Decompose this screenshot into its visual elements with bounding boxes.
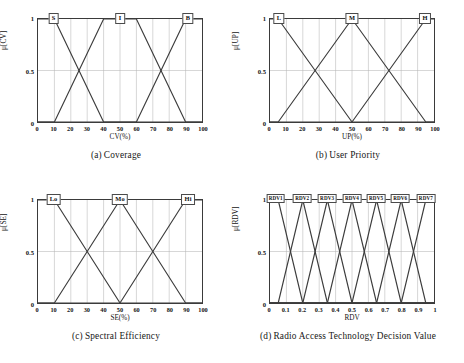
panel-b: μ[UP] LMH 00.51 0102030405060708090100 U… (232, 0, 464, 181)
panel-b-caption: (b)User Priority (232, 150, 464, 160)
panel-d-x-tick-6: 0.6 (365, 306, 373, 313)
panel-c-x-tick-2: 20 (67, 306, 73, 313)
panel-c-x-tick-7: 70 (150, 306, 156, 313)
panel-b-x-tick-10: 100 (430, 125, 439, 132)
panel-a-caption: (a)Coverage (0, 150, 232, 160)
panel-b-x-tick-2: 20 (299, 125, 305, 132)
panel-a-set-label-i: I (115, 13, 125, 24)
panel-d-caption: (d)Radio Access Technology Decision Valu… (232, 331, 464, 341)
panel-b-y-tick-0: 0 (242, 120, 266, 127)
panel-a-caption-label: (a) (91, 150, 102, 160)
panel-b-x-tick-7: 70 (382, 125, 388, 132)
panel-d-x-tick-2: 0.2 (298, 306, 306, 313)
panel-c-set-label-hi: Hi (181, 194, 195, 205)
panel-c-x-tick-0: 0 (35, 306, 38, 313)
panel-c-y-tick-0: 0 (10, 301, 34, 308)
panel-b-plot-area: μ[UP] LMH 00.51 0102030405060708090100 U… (232, 0, 464, 148)
panel-b-x-tick-5: 50 (349, 125, 355, 132)
panel-d-x-tick-8: 0.8 (398, 306, 406, 313)
panel-c-x-tick-8: 80 (167, 306, 173, 313)
panel-c-x-tick-3: 30 (84, 306, 90, 313)
panel-d-x-tick-1: 0.1 (282, 306, 290, 313)
panel-d-x-tick-4: 0.4 (331, 306, 339, 313)
panel-d-set-label-rdv2: RDV2 (293, 194, 312, 203)
panel-a-set-label-b: B (182, 13, 193, 24)
panel-d-set-label-rdv1: RDV1 (266, 194, 285, 203)
figure-grid: μ[CV] SIB 00.51 0102030405060708090100 C… (0, 0, 464, 363)
panel-a-y-tick-0: 0 (10, 120, 34, 127)
panel-c: μ[SE] LoMoHi 00.51 010203040506070809010… (0, 181, 232, 363)
panel-c-caption-label: (c) (72, 331, 83, 341)
panel-c-x-tick-9: 90 (183, 306, 189, 313)
panel-a-x-tick-6: 60 (133, 125, 139, 132)
panel-d-x-tick-9: 0.9 (414, 306, 422, 313)
panel-a-set-label-s: S (48, 13, 59, 24)
panel-a-x-tick-9: 90 (183, 125, 189, 132)
panel-a-x-axis-label: CV(%) (37, 133, 203, 141)
panel-c-x-tick-6: 60 (133, 306, 139, 313)
panel-a-x-tick-10: 100 (198, 125, 207, 132)
panel-c-y-tick-2: 1 (10, 196, 34, 203)
panel-c-caption: (c)Spectral Efficiency (0, 331, 232, 341)
panel-a-x-tick-5: 50 (117, 125, 123, 132)
panel-d-y-tick-0: 0 (242, 301, 266, 308)
panel-c-x-axis-label: SE(%) (37, 314, 203, 322)
panel-c-set-label-mo: Mo (112, 194, 128, 205)
panel-d-x-tick-0: 0 (267, 306, 270, 313)
panel-b-x-axis-label: UP(%) (269, 133, 435, 141)
panel-d-set-label-rdv3: RDV3 (318, 194, 337, 203)
panel-b-x-tick-0: 0 (267, 125, 270, 132)
panel-b-y-tick-1: 0.5 (242, 67, 266, 74)
panel-d-caption-text: Radio Access Technology Decision Value (273, 331, 436, 341)
panel-c-x-tick-1: 10 (50, 306, 56, 313)
panel-a-x-tick-3: 30 (84, 125, 90, 132)
panel-a-y-tick-2: 1 (10, 15, 34, 22)
panel-c-plot-area: μ[SE] LoMoHi 00.51 010203040506070809010… (0, 181, 232, 329)
panel-a-x-tick-4: 40 (100, 125, 106, 132)
panel-b-caption-text: User Priority (329, 150, 380, 160)
panel-a-x-tick-2: 20 (67, 125, 73, 132)
panel-d-x-tick-7: 0.7 (381, 306, 389, 313)
panel-d: μ[RDV] RDV1RDV2RDV3RDV4RDV5RDV6RDV7 00.5… (232, 181, 464, 363)
panel-d-set-label-rdv4: RDV4 (343, 194, 362, 203)
panel-b-x-tick-1: 10 (282, 125, 288, 132)
panel-b-set-label-l: L (273, 13, 284, 24)
panel-d-set-label-rdv6: RDV6 (391, 194, 410, 203)
panel-c-set-label-lo: Lo (46, 194, 61, 205)
panel-b-set-label-h: H (419, 13, 431, 24)
panel-d-plot-area: μ[RDV] RDV1RDV2RDV3RDV4RDV5RDV6RDV7 00.5… (232, 181, 464, 329)
panel-c-x-tick-5: 50 (117, 306, 123, 313)
panel-a-plot-area: μ[CV] SIB 00.51 0102030405060708090100 C… (0, 0, 232, 148)
panel-b-x-tick-4: 40 (332, 125, 338, 132)
panel-b-y-tick-2: 1 (242, 15, 266, 22)
panel-d-x-axis-label: RDV (269, 314, 435, 322)
panel-a-x-tick-0: 0 (35, 125, 38, 132)
panel-b-x-tick-6: 60 (365, 125, 371, 132)
panel-d-set-label-rdv5: RDV5 (367, 194, 386, 203)
panel-d-set-label-rdv7: RDV7 (416, 194, 435, 203)
panel-c-caption-text: Spectral Efficiency (85, 331, 160, 341)
panel-d-y-tick-2: 1 (242, 196, 266, 203)
panel-d-y-tick-1: 0.5 (242, 248, 266, 255)
panel-a-x-tick-8: 80 (167, 125, 173, 132)
panel-a-y-tick-1: 0.5 (10, 67, 34, 74)
panel-b-x-tick-8: 80 (399, 125, 405, 132)
panel-c-x-tick-10: 100 (198, 306, 207, 313)
panel-b-caption-label: (b) (316, 150, 327, 160)
panel-c-x-tick-4: 40 (100, 306, 106, 313)
panel-a-caption-text: Coverage (104, 150, 141, 160)
panel-c-y-tick-1: 0.5 (10, 248, 34, 255)
panel-d-x-tick-10: 1 (433, 306, 436, 313)
panel-b-x-tick-3: 30 (316, 125, 322, 132)
panel-b-set-label-m: M (345, 13, 358, 24)
panel-b-x-tick-9: 90 (415, 125, 421, 132)
panel-a-x-tick-1: 10 (50, 125, 56, 132)
panel-a: μ[CV] SIB 00.51 0102030405060708090100 C… (0, 0, 232, 181)
panel-d-x-tick-5: 0.5 (348, 306, 356, 313)
panel-d-caption-label: (d) (260, 331, 271, 341)
panel-d-x-tick-3: 0.3 (315, 306, 323, 313)
panel-a-x-tick-7: 70 (150, 125, 156, 132)
